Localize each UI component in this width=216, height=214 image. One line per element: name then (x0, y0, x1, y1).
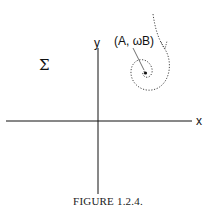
diagram-canvas: x y Σ (A, ωB) (0, 0, 216, 214)
figure: x y Σ (A, ωB) FIGURE 1.2.4. (0, 0, 216, 214)
fixed-point-label: (A, ωB) (114, 34, 154, 48)
label-leader-line (133, 48, 144, 70)
arrowhead-icon (161, 41, 167, 49)
figure-caption: FIGURE 1.2.4. (0, 195, 216, 207)
sigma-label: Σ (39, 56, 50, 74)
y-axis-label: y (94, 36, 100, 50)
spiral-trajectory (131, 14, 169, 90)
x-axis-label: x (196, 114, 202, 128)
fixed-point-dot (144, 71, 147, 74)
